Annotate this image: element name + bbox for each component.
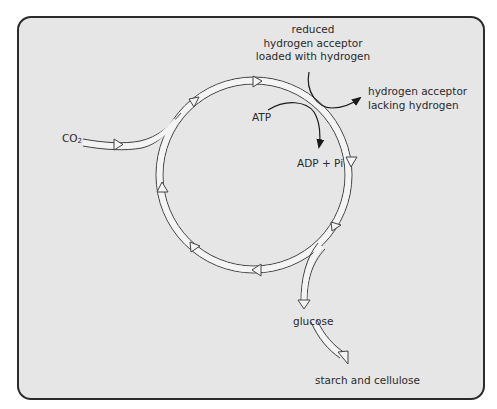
starch-cellulose-label: starch and cellulose — [315, 374, 420, 388]
reduced-acceptor-line-1: reduced — [256, 23, 370, 37]
co2-label: CO2 — [62, 132, 82, 149]
glucose-arrowhead — [298, 300, 310, 309]
reduced-acceptor-line-3: loaded with hydrogen — [256, 50, 370, 64]
atp-label: ATP — [252, 111, 271, 125]
atp-arrow — [268, 103, 320, 147]
oxidised-acceptor-line-2: lacking hydrogen — [368, 99, 467, 113]
oxidised-acceptor-line-1: hydrogen acceptor — [368, 85, 467, 99]
glucose-label: glucose — [293, 315, 333, 329]
calvin-cycle-diagram — [0, 0, 497, 409]
glucose-output-arrow — [298, 243, 325, 309]
adp-pi-label: ADP + Pi — [297, 157, 343, 171]
reduced-acceptor-line-2: hydrogen acceptor — [256, 37, 370, 51]
oxidised-acceptor-label: hydrogen acceptor lacking hydrogen — [368, 85, 467, 112]
reduced-acceptor-label: reduced hydrogen acceptor loaded with hy… — [256, 23, 370, 64]
